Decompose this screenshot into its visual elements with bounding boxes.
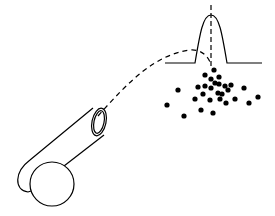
impact-dot [200,91,205,96]
impact-dot [202,83,207,88]
cannon-muzzle-inner [92,110,107,135]
impact-dot [207,97,212,102]
impact-dot [228,82,233,87]
impact-dot [208,85,213,90]
impact-dot [217,96,222,101]
impact-dot [202,72,207,77]
cannon-wheel [30,162,74,206]
impact-dot [211,67,216,72]
cannon-distribution-diagram [0,0,275,216]
impact-dot [216,74,221,79]
cannon [18,107,109,206]
cannon-barrel-lower-edge [64,135,104,166]
impact-dot [164,102,169,107]
impact-dot [195,84,200,89]
impact-dot [210,110,215,115]
bell-curve [165,15,262,63]
trajectory-dashed-line [98,50,210,116]
impact-dot [246,100,251,105]
impact-dot [225,87,230,92]
impact-points [164,67,260,118]
impact-dot [255,94,260,99]
impact-dot [208,76,213,81]
impact-dot [223,100,228,105]
diagram-canvas [0,0,275,216]
impact-dot [181,113,186,118]
impact-dot [219,91,224,96]
distribution-curve-group [165,5,262,68]
impact-dot [216,81,221,86]
impact-dot [241,85,246,90]
impact-dot [192,96,197,101]
impact-dot [175,87,180,92]
impact-dot [198,107,203,112]
impact-dot [232,96,237,101]
